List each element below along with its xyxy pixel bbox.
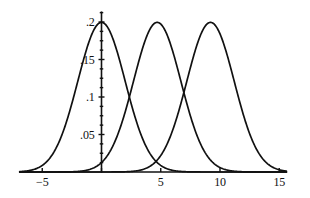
y-tick-label: .1 (86, 91, 95, 103)
axes (20, 12, 287, 172)
x-tick-label: 10 (214, 176, 226, 188)
curve-2 (20, 22, 287, 172)
data-curves (20, 22, 287, 172)
x-tick-label: 5 (158, 176, 164, 188)
chart-figure: .05.1.15.2 −551015 (0, 0, 310, 198)
curve-1 (20, 22, 287, 172)
x-tick-label: −5 (36, 176, 48, 188)
gaussian-curves-plot (0, 0, 310, 198)
x-tick-label: 15 (273, 176, 285, 188)
y-tick-label: .2 (86, 16, 95, 28)
y-tick-label: .15 (80, 54, 94, 66)
curve-3 (20, 22, 287, 172)
y-tick-label: .05 (80, 129, 94, 141)
